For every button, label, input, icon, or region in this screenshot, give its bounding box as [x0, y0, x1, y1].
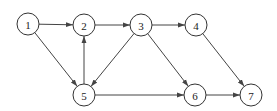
- edge-1-to-5: [35, 33, 77, 87]
- node-label: 7: [248, 90, 254, 102]
- node-2: 2: [73, 14, 95, 36]
- node-label: 2: [81, 20, 87, 32]
- node-3: 3: [130, 14, 152, 36]
- node-1: 1: [17, 13, 39, 35]
- edge-1-to-2: [39, 24, 73, 25]
- node-5: 5: [73, 84, 95, 106]
- edge-3-to-6: [148, 34, 189, 87]
- node-4: 4: [185, 14, 207, 36]
- node-label: 1: [25, 19, 31, 31]
- nodes-group: 1234567: [17, 13, 262, 106]
- node-6: 6: [184, 84, 206, 106]
- node-7: 7: [240, 84, 262, 106]
- node-label: 6: [192, 90, 198, 102]
- directed-graph: 1234567: [0, 0, 277, 111]
- node-label: 4: [193, 20, 199, 32]
- edge-4-to-7: [203, 34, 244, 87]
- node-label: 3: [138, 20, 144, 32]
- edge-3-to-5: [91, 34, 134, 87]
- node-label: 5: [81, 90, 87, 102]
